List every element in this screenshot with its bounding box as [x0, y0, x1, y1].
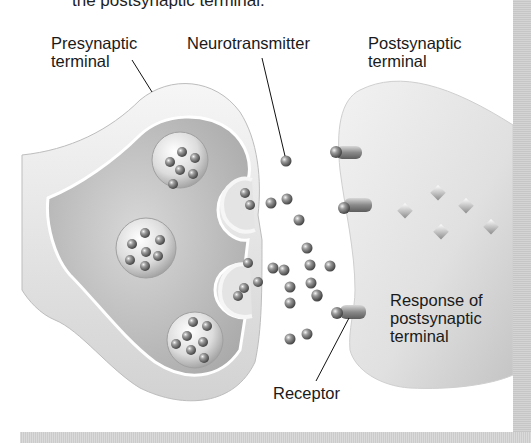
response-label: Response of postsynaptic terminal [390, 291, 483, 345]
vesicle-1 [152, 132, 208, 189]
receptor-2 [338, 198, 372, 214]
vesicle-2 [116, 218, 176, 278]
neurotransmitter-molecules [266, 156, 336, 345]
vesicle-3 [167, 312, 223, 368]
receptor-3 [331, 305, 366, 319]
fusing-vesicle-upper [222, 179, 255, 232]
receptor-leader [316, 318, 349, 381]
receptor-label: Receptor [273, 384, 340, 402]
neurotransmitter-label: Neurotransmitter [187, 34, 310, 52]
receptor-1 [330, 146, 362, 159]
page-edge-right [513, 0, 531, 443]
presynaptic-terminal-label: Presynaptic terminal [51, 34, 137, 70]
postsynaptic-terminal-label: Postsynaptic terminal [368, 34, 462, 70]
page-edge-bottom [20, 432, 531, 443]
synapse-diagram: the postsynaptic terminal. [0, 0, 531, 443]
neurotransmitter-leader [262, 58, 285, 156]
